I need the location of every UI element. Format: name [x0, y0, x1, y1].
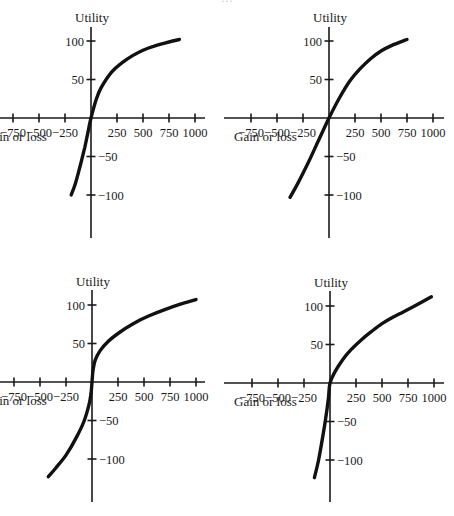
y-axis-title: Utility	[76, 274, 110, 289]
utility-curve	[48, 300, 196, 477]
chart-bottom-left: −750−500−250250500750100010050−50−100Uti…	[0, 274, 209, 502]
chart-top-right: −750−500−250250500750100010050−50−100Uti…	[224, 10, 446, 238]
x-axis-title: Gain or loss	[234, 129, 297, 144]
x-tick-label: 500	[135, 390, 154, 404]
y-tick-label: 100	[66, 299, 85, 313]
y-tick-label: 100	[303, 35, 322, 49]
y-axis-title: Utility	[313, 10, 347, 25]
x-axis-title: Gain or loss	[0, 129, 47, 144]
y-tick-label: −100	[336, 189, 362, 203]
utility-curve	[314, 297, 431, 478]
utility-function-plots: −750−500−250250500750100010050−50−100Uti…	[0, 0, 454, 516]
y-tick-label: −100	[99, 453, 125, 467]
x-tick-label: 1000	[421, 126, 446, 140]
x-tick-label: 500	[372, 126, 391, 140]
x-tick-label: 250	[108, 126, 127, 140]
x-tick-label: −250	[53, 390, 79, 404]
x-tick-label: 250	[346, 126, 365, 140]
x-tick-label: 250	[347, 391, 366, 405]
y-tick-label: −50	[336, 150, 356, 164]
y-tick-label: −100	[337, 454, 363, 468]
x-axis-title: Gain or loss	[234, 394, 297, 409]
y-tick-label: 50	[311, 338, 324, 352]
y-tick-label: −50	[99, 414, 119, 428]
x-tick-label: 750	[161, 390, 180, 404]
y-axis-title: Utility	[75, 10, 109, 25]
x-tick-label: 500	[373, 391, 392, 405]
y-tick-label: 100	[65, 35, 84, 49]
x-tick-label: 1000	[183, 126, 208, 140]
y-tick-label: −100	[98, 189, 124, 203]
y-axis-title: Utility	[314, 275, 348, 290]
y-tick-label: 100	[304, 300, 323, 314]
x-tick-label: −250	[52, 126, 78, 140]
x-tick-label: 750	[160, 126, 179, 140]
y-tick-label: −50	[98, 150, 118, 164]
x-axis-title: Gain or loss	[0, 393, 47, 408]
x-tick-label: 1000	[184, 390, 209, 404]
y-tick-label: −50	[337, 415, 357, 429]
y-tick-label: 50	[73, 337, 86, 351]
x-tick-label: 250	[109, 390, 128, 404]
chart-bottom-right: −750−500−250250500750100010050−50−100Uti…	[224, 275, 447, 502]
x-tick-label: 750	[398, 126, 417, 140]
x-tick-label: 500	[134, 126, 153, 140]
y-tick-label: 50	[310, 73, 323, 87]
chart-top-left: −750−500−250250500750100010050−50−100Uti…	[0, 10, 208, 238]
x-tick-label: 1000	[422, 391, 447, 405]
x-tick-label: 750	[399, 391, 418, 405]
y-tick-label: 50	[72, 73, 85, 87]
